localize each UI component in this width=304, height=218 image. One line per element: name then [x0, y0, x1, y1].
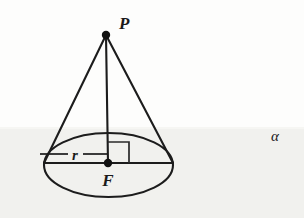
label-center-F: F [101, 171, 114, 190]
geometry-figure: P F r α [0, 0, 304, 218]
center-point-dot [104, 159, 112, 167]
cone-diagram-svg: P F r α [0, 0, 304, 218]
label-radius-r: r [72, 147, 78, 163]
label-apex-P: P [118, 14, 130, 33]
apex-point-dot [102, 31, 110, 39]
plane-alpha-edge [0, 127, 304, 129]
label-plane-alpha: α [271, 128, 280, 144]
